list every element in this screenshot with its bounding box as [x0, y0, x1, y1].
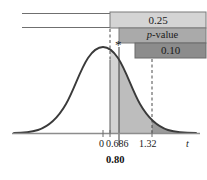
bar-label-pvalue: p-value	[119, 30, 206, 41]
t-distribution-pvalue-figure: 0.25 p-value 0.10 * 0 0.686 1.32 t 0.80	[0, 0, 207, 180]
bar-label-alpha025: 0.25	[110, 15, 206, 26]
axis-tick-label-0686: 0.686	[106, 139, 129, 149]
t-density-curve	[14, 47, 196, 133]
axis-tick-label-132: 1.32	[139, 139, 157, 149]
observed-value-label: 0.80	[106, 155, 124, 166]
axis-variable-label: t	[186, 139, 189, 149]
observed-star-marker: *	[115, 38, 122, 51]
pvalue-suffix: -value	[152, 29, 178, 40]
bar-label-alpha010: 0.10	[135, 45, 206, 56]
axis-tick-label-0: 0	[99, 139, 104, 149]
chart-canvas	[0, 0, 207, 180]
